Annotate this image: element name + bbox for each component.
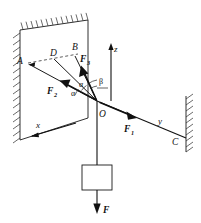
label-force-F3-sub: 3: [86, 59, 90, 66]
label-angle-beta: β: [99, 77, 103, 86]
figure-root: A D B C O z y x F 1 F 2 F 3 F α α β: [0, 0, 201, 223]
block-rect: [82, 165, 112, 190]
label-force-F2-base: F: [46, 86, 54, 96]
label-point-A: A: [16, 56, 23, 66]
label-force-F: F: [102, 205, 110, 215]
label-force-F1-sub: 1: [131, 129, 134, 136]
label-force-F2: F 2: [46, 86, 57, 98]
label-point-B: B: [72, 42, 78, 52]
label-force-F1-base: F: [123, 124, 131, 134]
label-axis-x: x: [35, 120, 40, 130]
wall-left-edge-hatching: [13, 33, 20, 143]
x-axis-arrowhead: [31, 133, 40, 138]
label-force-F3-base: F: [79, 54, 87, 64]
z-axis-arrowhead: [108, 43, 113, 50]
label-angle-alpha-lower: α: [71, 89, 76, 98]
wall-left-panel: [13, 13, 88, 143]
label-axis-z: z: [113, 44, 118, 54]
wall-right-hatching: [186, 94, 193, 152]
label-point-D: D: [49, 48, 57, 58]
label-point-O: O: [99, 109, 106, 119]
label-force-F1: F 1: [123, 124, 134, 136]
arc-beta: [89, 80, 98, 84]
label-point-C: C: [172, 137, 179, 147]
label-axis-y: y: [157, 116, 162, 126]
weight-arrowhead: [93, 204, 100, 215]
force-diagram-svg: A D B C O z y x F 1 F 2 F 3 F α α β: [0, 0, 201, 223]
wall-panel-outline: [20, 20, 88, 140]
coordinate-axes: [31, 43, 187, 165]
wall-top-edge-hatching: [21, 13, 88, 30]
label-force-F2-sub: 2: [53, 91, 57, 98]
wall-right-panel: [186, 94, 193, 152]
